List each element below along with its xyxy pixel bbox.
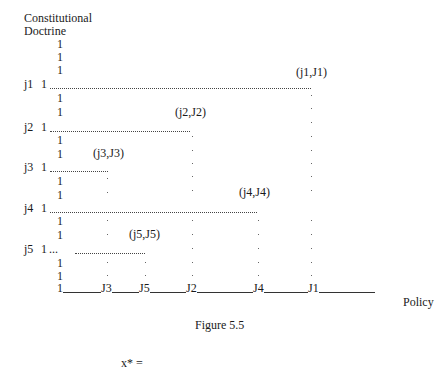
y-axis-label-2: Doctrine: [24, 25, 66, 37]
dotted-line-j5: [75, 253, 145, 254]
axis-tick: 1: [57, 175, 63, 187]
axis-tick: 1: [41, 121, 47, 133]
row-label-j1: j1: [24, 78, 33, 90]
figure-caption: Figure 5.5: [195, 319, 244, 331]
axis-tick: 1: [41, 243, 47, 255]
y-axis-label: Constitutional: [24, 12, 92, 24]
axis-tick: 1: [57, 106, 63, 118]
point-label-j1: (j1,J1): [296, 66, 327, 78]
row-label-j3: j3: [24, 161, 33, 173]
dotted-line-j1: [50, 88, 311, 89]
axis-tick: 1: [57, 51, 63, 63]
row-label-j4: j4: [24, 202, 33, 214]
x-tick-J2: J2: [186, 282, 197, 294]
row-label-j2: j2: [24, 121, 33, 133]
point-label-j3: (j3,J3): [93, 147, 124, 159]
axis-tick: 1: [41, 161, 47, 173]
dotted-line-j2: [50, 131, 190, 132]
axis-tick: 1: [57, 134, 63, 146]
axis-tick: 1: [41, 202, 47, 214]
x-tick-J5: J5: [139, 282, 150, 294]
dotted-line-j3: [50, 171, 108, 172]
point-label-j5: (j5,J5): [129, 228, 160, 240]
axis-tick: 1: [41, 78, 47, 90]
x-tick-J1: J1: [308, 282, 319, 294]
x-axis-label: Policy: [403, 296, 434, 308]
point-label-j4: (j4,J4): [239, 186, 270, 198]
axis-tick: 1: [57, 229, 63, 241]
x-tick-J4: J4: [253, 282, 264, 294]
axis-tick: 1: [57, 189, 63, 201]
axis-tick: 1: [57, 64, 63, 76]
axis-tick: 1: [57, 215, 63, 227]
x-tick-J3: J3: [101, 282, 112, 294]
dotted-line-j4: [50, 212, 257, 213]
row-prefix-j5: ...: [49, 243, 58, 255]
axis-tick: 1: [57, 148, 63, 160]
axis-tick: 1: [57, 92, 63, 104]
equation: x* =: [121, 357, 143, 369]
axis-tick: 1: [57, 38, 63, 50]
row-label-j5: j5: [24, 243, 33, 255]
axis-tick: 1: [57, 257, 63, 269]
point-label-j2: (j2,J2): [175, 106, 206, 118]
